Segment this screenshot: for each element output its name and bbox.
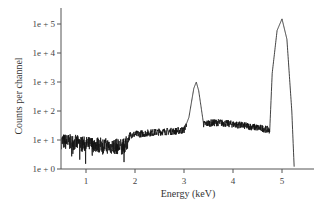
- y-tick-label: 1e + 0: [32, 164, 55, 174]
- y-ticks: 1e + 01e + 11e + 21e + 31e + 41e + 5: [32, 19, 61, 174]
- x-ticks: 12345: [84, 169, 285, 186]
- x-tick-label: 3: [182, 176, 187, 186]
- x-tick-label: 5: [280, 176, 285, 186]
- x-axis-title: Energy (keV): [161, 188, 216, 200]
- x-tick-label: 1: [84, 176, 89, 186]
- y-tick-label: 1e + 3: [32, 77, 55, 87]
- y-axis-title: Counts per channel: [13, 57, 24, 134]
- y-tick-label: 1e + 2: [32, 106, 55, 116]
- y-tick-label: 1e + 1: [32, 135, 55, 145]
- x-tick-label: 2: [133, 176, 138, 186]
- axes: 1e + 01e + 11e + 21e + 31e + 41e + 5 123…: [32, 8, 314, 186]
- x-tick-label: 4: [231, 176, 236, 186]
- plot-area: [62, 19, 295, 167]
- spectrum-chart: 1e + 01e + 11e + 21e + 31e + 41e + 5 123…: [0, 0, 329, 211]
- y-tick-label: 1e + 4: [32, 48, 55, 58]
- y-tick-label: 1e + 5: [32, 19, 55, 29]
- spectrum-line: [62, 19, 295, 167]
